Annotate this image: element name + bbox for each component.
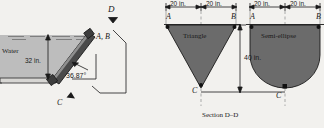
semiellipse-vertex-a [250, 25, 254, 29]
semiellipse-right-width-label: 20 in. [290, 1, 306, 8]
semiellipse-vertex-c [283, 84, 288, 89]
section-caption: Section D–D [202, 112, 238, 119]
triangle-right-width-label: 20 in. [206, 1, 222, 8]
section-label-d: D [108, 5, 115, 14]
angle-label: 36.87° [66, 72, 86, 79]
figure-canvas: Water 32 in. 36.87° D A, B C [0, 0, 324, 128]
triangle-corner-label-b: B [231, 13, 236, 21]
water-label: Water [2, 48, 19, 55]
triangle-left-width-label: 20 in. [170, 1, 186, 8]
semiellipse-apex-label-c: C [276, 92, 281, 100]
triangle-corner-label-a: A [166, 13, 171, 21]
height-dimension-label: 40 in. [244, 54, 261, 61]
depth-dimension-label: 32 in. [25, 58, 41, 65]
triangle-vertex-b [233, 25, 237, 29]
triangle-vertex-c [199, 83, 203, 87]
section-marker-d [92, 18, 126, 94]
semiellipse-vertex-b [317, 25, 321, 29]
triangle-shape-label: Triangle [183, 33, 206, 40]
semiellipse-shape-label: Semi-ellipse [261, 33, 296, 40]
section-marker-c [67, 92, 76, 99]
left-elevation-view: Water 32 in. 36.87° D A, B C [0, 0, 162, 128]
right-section-view: 20 in. 20 in. 20 in. 20 in. A B A B Tria… [162, 0, 324, 128]
plate-top-label-ab: A, B [96, 33, 110, 41]
triangle-apex-label-c: C [192, 87, 197, 95]
triangle-vertex-a [166, 25, 170, 29]
semiellipse-corner-label-a: A [250, 13, 255, 21]
semiellipse-corner-label-b: B [316, 13, 321, 21]
plate-bottom-label-c: C [57, 99, 62, 107]
right-view-svg [162, 0, 324, 128]
semiellipse-left-width-label: 20 in. [254, 1, 270, 8]
